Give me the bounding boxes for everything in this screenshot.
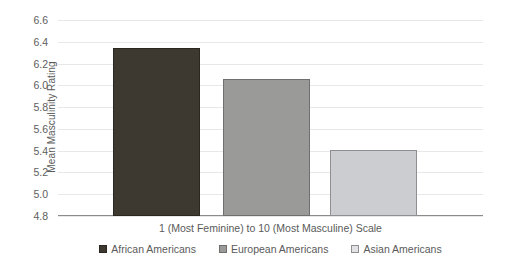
bar-african-americans	[113, 48, 200, 216]
legend-swatch-african-americans	[99, 245, 107, 253]
bar-asian-americans	[330, 150, 417, 216]
y-axis-tick-label: 5.6	[33, 123, 48, 135]
legend-item: African Americans	[99, 243, 196, 255]
legend-label: European Americans	[231, 243, 328, 255]
gridline	[58, 20, 483, 21]
chart-legend: African AmericansEuropean AmericansAsian…	[58, 243, 483, 255]
legend-swatch-asian-americans	[351, 245, 359, 253]
y-axis-tick-label: 6.4	[33, 36, 48, 48]
bar-chart: Mean Masculinity Rating 6.66.46.26.05.85…	[0, 0, 508, 267]
legend-label: African Americans	[111, 243, 196, 255]
y-axis-tick-label: 6.6	[33, 14, 48, 26]
legend-label: Asian Americans	[363, 243, 441, 255]
plot-area	[58, 20, 483, 216]
y-axis-tick-label: 6.2	[33, 58, 48, 70]
y-axis-tick-label: 5.4	[33, 145, 48, 157]
bar-european-americans	[223, 79, 310, 216]
gridline	[58, 42, 483, 43]
y-axis-tick-labels: 6.66.46.26.05.85.65.45.25.04.8	[0, 0, 52, 267]
legend-swatch-european-americans	[219, 245, 227, 253]
y-axis-tick-label: 5.8	[33, 101, 48, 113]
y-axis-tick-label: 4.8	[33, 210, 48, 222]
legend-item: Asian Americans	[351, 243, 441, 255]
y-axis-tick-label: 5.0	[33, 188, 48, 200]
x-axis-title: 1 (Most Feminine) to 10 (Most Masculine)…	[58, 222, 483, 234]
legend-item: European Americans	[219, 243, 328, 255]
y-axis-tick-label: 5.2	[33, 166, 48, 178]
gridline	[58, 216, 483, 217]
y-axis-tick-label: 6.0	[33, 79, 48, 91]
